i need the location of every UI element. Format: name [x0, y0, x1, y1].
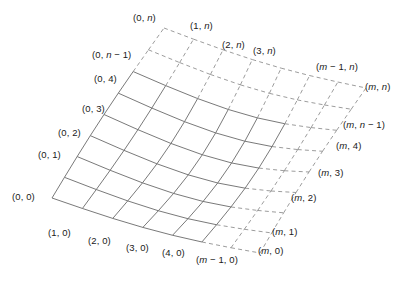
vertex-label-v-m-4: (m, 4): [336, 141, 361, 151]
grid-line-dashed: [285, 124, 311, 128]
grid-line-dashed: [133, 50, 148, 72]
grid-line-solid: [124, 130, 138, 151]
grid-line-solid: [157, 164, 188, 175]
vertex-label-v-4-0: (4, 0): [162, 248, 185, 258]
vertex-label-v-3-0: (3, 0): [126, 243, 149, 253]
grid-line-solid: [203, 183, 218, 201]
grid-line-dashed: [198, 74, 211, 98]
grid-line-dashed: [180, 63, 211, 75]
grid-line-solid: [198, 99, 229, 110]
grid-line-solid: [118, 72, 133, 94]
vertex-label-v-0-n-1: (0, n − 1): [92, 50, 131, 60]
grid-line-dashed: [231, 207, 258, 210]
grid-line-solid: [231, 188, 245, 207]
grid-line-dashed: [148, 28, 164, 50]
vertex-label-v-1-0: (1, 0): [48, 228, 71, 238]
grid-line-solid: [104, 93, 118, 114]
grid-line-solid: [257, 118, 284, 124]
vertex-label-v-3-n: (3, n): [253, 46, 276, 56]
vertex-label-v-m-3: (m, 3): [318, 168, 343, 178]
grid-line-dashed: [202, 242, 231, 248]
grid-line-dashed: [296, 172, 309, 193]
grid-line-solid: [216, 133, 245, 141]
vertex-label-v-0-2: (0, 2): [58, 128, 81, 138]
grid-line-dashed: [259, 168, 285, 171]
grid-line-dashed: [324, 82, 337, 105]
vertex-label-v-0-3: (0, 3): [82, 104, 105, 114]
grid-line-dashed: [244, 229, 271, 233]
grid-line-solid: [104, 115, 138, 130]
vertex-label-v-0-n: (0, n): [133, 13, 156, 23]
grid-line-solid: [171, 143, 202, 154]
grid-line-dashed: [297, 76, 309, 100]
grid-line-dashed: [285, 100, 297, 124]
grid-line-dashed: [194, 39, 223, 50]
vertex-label-v-1-n: (1, n): [190, 21, 213, 31]
vertex-label-v-2-0: (2, 0): [88, 236, 111, 246]
grid-line-dashed: [231, 248, 260, 253]
grid-line-solid: [113, 201, 128, 219]
grid-line-dashed: [148, 50, 179, 63]
grid-line-solid: [245, 118, 258, 141]
grid-line-dashed: [258, 210, 284, 212]
grid-line-dashed: [338, 82, 366, 88]
grid-line-dashed: [324, 105, 351, 109]
grid-line-solid: [143, 227, 173, 235]
grid-line-solid: [52, 198, 82, 208]
grid-line-dashed: [298, 150, 323, 152]
grid-line-solid: [185, 99, 198, 122]
grid-line-dashed: [298, 128, 311, 150]
grid-line-solid: [118, 93, 152, 108]
grid-line-solid: [64, 157, 77, 178]
grid-line-solid: [203, 201, 231, 207]
grid-line-solid: [124, 150, 157, 163]
grid-line-solid: [217, 207, 231, 225]
grid-line-dashed: [272, 147, 298, 150]
vertex-label-v-m-0: (m, 0): [258, 246, 283, 256]
grid-line-solid: [128, 201, 159, 211]
grid-line-solid: [158, 193, 173, 210]
grid-line-solid: [110, 170, 142, 183]
grid-line-dashed: [271, 171, 284, 191]
grid-line-dashed: [240, 85, 269, 93]
grid-line-solid: [173, 235, 202, 242]
figure-canvas: (0, n)(1, n)(2, n)(3, n)(m − 1, n)(m, n)…: [0, 0, 416, 282]
grid-line-dashed: [269, 93, 297, 100]
grid-line-solid: [272, 124, 285, 147]
grid-line-solid: [216, 109, 229, 132]
grid-line-solid: [188, 201, 203, 218]
grid-line-solid: [218, 163, 232, 183]
grid-line-solid: [259, 147, 272, 169]
grid-line-solid: [232, 141, 245, 163]
grid-line-dashed: [310, 76, 338, 82]
grid-line-solid: [113, 218, 143, 227]
grid-line-dashed: [323, 130, 337, 151]
vertex-label-v-m-n-1: (m, n − 1): [343, 120, 385, 130]
grid-line-dashed: [223, 50, 252, 60]
grid-line-solid: [142, 164, 156, 183]
vertex-label-v-m-1-n: (m − 1, n): [316, 62, 358, 72]
grid-line-solid: [202, 133, 215, 155]
grid-line-solid: [158, 211, 188, 219]
grid-line-dashed: [311, 128, 337, 131]
grid-line-solid: [173, 219, 188, 236]
vertex-label-v-0-4: (0, 4): [94, 74, 117, 84]
vertex-label-v-m-n: (m, n): [365, 82, 390, 92]
grid-line-solid: [188, 155, 202, 175]
grid-line-dashed: [166, 63, 180, 86]
grid-line-solid: [110, 150, 124, 170]
vertex-label-v-2-n: (2, n): [222, 40, 245, 50]
vertex-label-v-m-1-0: (m − 1, 0): [196, 255, 238, 265]
grid-line-solid: [218, 183, 245, 188]
grid-line-solid: [90, 136, 124, 151]
grid-line-solid: [232, 163, 259, 168]
grid-line-solid: [245, 141, 272, 146]
grid-line-dashed: [252, 60, 281, 69]
grid-line-dashed: [258, 191, 271, 210]
grid-line-dashed: [257, 93, 269, 118]
grid-line-dashed: [269, 68, 281, 93]
grid-line-dashed: [228, 85, 240, 110]
grid-line-solid: [90, 115, 104, 136]
grid-line-dashed: [284, 171, 309, 172]
grid-line-solid: [202, 155, 231, 163]
